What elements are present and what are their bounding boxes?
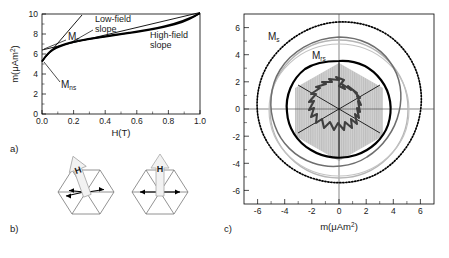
- panel-c-ms-subscript: s: [276, 36, 280, 43]
- panel-c-mrs-label: Mrs: [312, 50, 327, 62]
- panel-c-xtick-m2: -2: [308, 206, 316, 216]
- panel-a-mns-label: Mns: [61, 79, 77, 91]
- panel-c-ytick-m2: -2: [232, 132, 240, 142]
- panel-a-ytick-2: 2: [33, 89, 38, 99]
- panel-a-ytick-4: 4: [33, 69, 38, 79]
- panel-c-xtick-0: 0: [337, 206, 342, 216]
- panel-a-xtick-0: 0.0: [36, 116, 48, 126]
- panel-a-ytick-6: 6: [33, 49, 38, 59]
- panel-a-low-field-label-line2: slope: [95, 24, 117, 34]
- panel-c-y-axis: 6 4 2 0 -2 -4 -6: [232, 23, 249, 196]
- panel-label-c: c): [224, 223, 232, 234]
- panel-c-xaxis-label: m(μAm2): [320, 221, 358, 232]
- panel-c-ms-letter: M: [268, 31, 276, 42]
- panel-a-mns-leader: [44, 62, 60, 82]
- panel-a-ytick-10: 10: [29, 9, 39, 19]
- panel-a-yaxis-mid: Am: [9, 52, 20, 66]
- panel-c-group: 6 4 2 0 -2 -4 -6 -6 -4 -2 0: [224, 14, 434, 234]
- svg-text:m(μAm2): m(μAm2): [9, 45, 20, 83]
- hexagon-right-field-label: H: [157, 164, 164, 174]
- panel-a-low-field-label-line1: Low-field: [95, 14, 131, 24]
- panel-a-high-field-label-line1: High-field: [150, 30, 188, 40]
- panel-c-x-axis: -6 -4 -2 0 2 4 6: [254, 199, 423, 216]
- panel-c-xtick-6: 6: [418, 206, 423, 216]
- panel-c-ytick-4: 4: [235, 50, 240, 60]
- panel-a-xtick-1: 0.2: [68, 116, 80, 126]
- panel-a-x-axis: 0.0 0.2 0.4 0.6 0.8 1.0: [36, 110, 206, 126]
- panel-c-mrs-letter: M: [312, 50, 320, 61]
- panel-a-yaxis-suffix: ): [9, 45, 20, 48]
- panel-a-xtick-4: 0.8: [162, 116, 174, 126]
- figure-svg: 0 2 4 6 8 10 0.0 0.2 0.4 0.6 0.8 1.0: [0, 0, 449, 258]
- panel-a-xtick-3: 0.6: [131, 116, 143, 126]
- panel-a-group: 0 2 4 6 8 10 0.0 0.2 0.4 0.6 0.8 1.0: [9, 9, 206, 154]
- panel-a-high-field-label-line2: slope: [150, 40, 172, 50]
- panel-a-yaxis-label: m(μAm2): [9, 45, 20, 83]
- figure-container: 0 2 4 6 8 10 0.0 0.2 0.4 0.6 0.8 1.0: [0, 0, 449, 258]
- panel-c-ytick-6: 6: [235, 23, 240, 33]
- panel-a-mns-subscript: ns: [69, 84, 77, 91]
- panel-label-a: a): [10, 143, 18, 154]
- panel-c-ytick-m6: -6: [232, 186, 240, 196]
- panel-a-xaxis-label: H(T): [112, 127, 131, 138]
- panel-c-xtick-4: 4: [391, 206, 396, 216]
- panel-c-xaxis-mid: Am: [337, 221, 351, 232]
- panel-c-xtick-2: 2: [364, 206, 369, 216]
- panel-a-xtick-5: 1.0: [194, 116, 206, 126]
- hexagon-right-field-arrow: H: [151, 154, 169, 196]
- panel-a-ms-label: Ms: [68, 31, 80, 43]
- panel-a-plot-frame: [42, 14, 200, 114]
- hexagon-left: H: [58, 153, 114, 214]
- panel-b-group: H H b): [10, 153, 188, 234]
- panel-a-ytick-8: 8: [33, 29, 38, 39]
- hexagon-right: H: [132, 154, 188, 214]
- panel-c-mrs-subscript: rs: [320, 55, 326, 62]
- panel-c-ytick-m4: -4: [232, 159, 240, 169]
- panel-a-mns-letter: M: [61, 79, 69, 90]
- panel-c-ytick-0: 0: [235, 104, 240, 114]
- panel-a-y-axis: 0 2 4 6 8 10: [29, 9, 46, 119]
- panel-c-xtick-m6: -6: [254, 206, 262, 216]
- panel-c-xaxis-suffix: ): [355, 221, 358, 232]
- panel-a-xtick-2: 0.4: [99, 116, 111, 126]
- panel-c-ytick-2: 2: [235, 77, 240, 87]
- panel-c-ms-label: Ms: [268, 31, 280, 43]
- panel-c-xtick-m4: -4: [281, 206, 289, 216]
- panel-label-b: b): [10, 223, 18, 234]
